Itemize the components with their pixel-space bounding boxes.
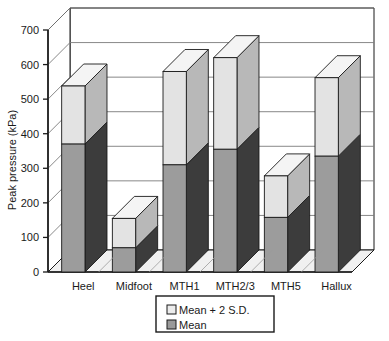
bar-hallux[interactable] <box>315 56 360 272</box>
bar-segment-mean[interactable] <box>112 248 135 272</box>
legend-swatch <box>167 305 176 314</box>
x-axis-category-label: MTH1 <box>170 280 200 292</box>
y-tick-label: 300 <box>21 162 39 174</box>
bar-segment-mean-plus-2sd[interactable] <box>112 218 135 247</box>
peak-pressure-bar-chart: 0100200300400500600700 HeelMidfootMTH1MT… <box>0 0 389 341</box>
chart-legend: Mean + 2 S.D.Mean <box>156 296 274 332</box>
y-tick-label: 400 <box>21 128 39 140</box>
bar-segment-mean-plus-2sd[interactable] <box>214 58 237 150</box>
x-axis-category-label: Hallux <box>321 280 352 292</box>
bar-side-mean <box>338 134 360 272</box>
bar-mth1[interactable] <box>163 49 208 272</box>
bar-mth2-3[interactable] <box>214 36 259 272</box>
bar-segment-mean[interactable] <box>62 144 85 272</box>
x-axis-category-label: MTH5 <box>271 280 301 292</box>
bar-segment-mean[interactable] <box>163 165 186 272</box>
bar-mth5[interactable] <box>264 154 309 272</box>
legend-swatch <box>167 320 176 329</box>
x-axis-category-label: MTH2/3 <box>216 280 255 292</box>
bar-heel[interactable] <box>62 64 107 272</box>
y-tick-label: 600 <box>21 59 39 71</box>
bar-side-mean <box>237 127 259 272</box>
chart-figure: 0100200300400500600700 HeelMidfootMTH1MT… <box>0 0 389 341</box>
legend-label: Mean <box>179 319 207 331</box>
y-axis-title: Peak pressure (kPa) <box>6 110 18 210</box>
bar-segment-mean[interactable] <box>214 149 237 272</box>
bar-side-mean <box>85 122 107 272</box>
y-tick-label: 0 <box>33 266 39 278</box>
legend-label: Mean + 2 S.D. <box>179 304 250 316</box>
y-tick-label: 700 <box>21 24 39 36</box>
bar-segment-mean-plus-2sd[interactable] <box>62 86 85 144</box>
y-axis-ticks: 0100200300400500600700 <box>21 24 48 278</box>
x-axis-category-label: Midfoot <box>116 280 152 292</box>
bar-side-mean <box>186 143 208 272</box>
bar-segment-mean-plus-2sd[interactable] <box>163 71 186 164</box>
y-tick-label: 200 <box>21 197 39 209</box>
bar-segment-mean-plus-2sd[interactable] <box>264 176 287 217</box>
y-tick-label: 100 <box>21 231 39 243</box>
bar-segment-mean[interactable] <box>264 217 287 272</box>
y-tick-label: 500 <box>21 93 39 105</box>
x-axis-category-label: Heel <box>72 280 95 292</box>
bar-segment-mean-plus-2sd[interactable] <box>315 78 338 156</box>
